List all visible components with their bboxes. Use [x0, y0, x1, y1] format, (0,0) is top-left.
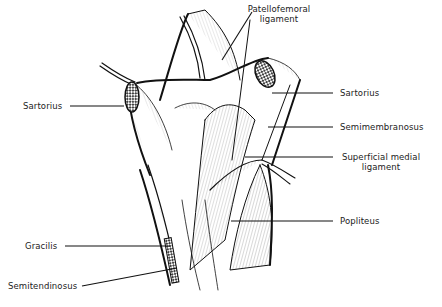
- label-semimembranosus: Semimembranosus: [340, 122, 424, 132]
- label-text: Superficial medial: [336, 152, 426, 162]
- label-patellofemoral-ligament: Patellofemoral ligament: [234, 4, 324, 24]
- label-text: Patellofemoral: [234, 4, 324, 14]
- label-sartorius-left: Sartorius: [23, 101, 62, 111]
- label-superficial-medial-ligament: Superficial medial ligament: [336, 152, 426, 172]
- label-semitendinosus: Semitendinosus: [8, 281, 77, 291]
- label-text: ligament: [234, 14, 324, 24]
- knee-drawing: [100, 10, 300, 290]
- label-gracilis: Gracilis: [25, 241, 57, 251]
- label-popliteus: Popliteus: [340, 216, 379, 226]
- label-text: ligament: [336, 162, 426, 172]
- label-sartorius-right: Sartorius: [340, 88, 379, 98]
